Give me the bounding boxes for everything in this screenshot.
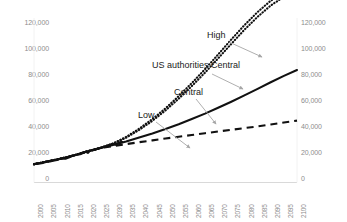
x-axis-tick-2035: 2035 bbox=[129, 204, 136, 218]
x-axis-tick-2075: 2075 bbox=[234, 204, 241, 218]
x-axis-tick-2005: 2005 bbox=[50, 204, 57, 218]
x-axis-tick-2000: 2000 bbox=[37, 204, 44, 218]
leader-arrow-central bbox=[196, 99, 216, 124]
x-axis-tick-2065: 2065 bbox=[208, 204, 215, 218]
annotation-label-us-authorities-central: US authorities Central bbox=[152, 60, 240, 70]
x-axis-tick-2060: 2060 bbox=[195, 204, 202, 218]
leader-arrow-us-authorities-central bbox=[212, 74, 243, 89]
series-path-high bbox=[34, 0, 297, 164]
series-path-central bbox=[34, 70, 297, 164]
x-axis-tick-2015: 2015 bbox=[77, 204, 84, 218]
x-axis-tick-2055: 2055 bbox=[182, 204, 189, 218]
x-axis-tick-2025: 2025 bbox=[103, 204, 110, 218]
x-axis-tick-2045: 2045 bbox=[156, 204, 163, 218]
x-axis-tick-2070: 2070 bbox=[221, 204, 228, 218]
series-path-historical bbox=[34, 142, 122, 164]
x-axis-tick-2010: 2010 bbox=[64, 204, 71, 218]
x-axis-tick-2085: 2085 bbox=[261, 204, 268, 218]
series-path-low bbox=[34, 121, 297, 165]
x-axis-tick-2095: 2095 bbox=[287, 204, 294, 218]
x-axis-tick-2040: 2040 bbox=[142, 204, 149, 218]
x-axis-tick-2050: 2050 bbox=[169, 204, 176, 218]
annotation-label-high: High bbox=[207, 30, 226, 40]
x-axis-tick-2080: 2080 bbox=[248, 204, 255, 218]
plot-area bbox=[0, 0, 347, 222]
x-axis-tick-2030: 2030 bbox=[116, 204, 123, 218]
x-axis-tick-2090: 2090 bbox=[274, 204, 281, 218]
series-path-us-authorities-central bbox=[34, 0, 297, 164]
leader-arrow-high bbox=[229, 42, 262, 57]
annotation-label-central: Central bbox=[174, 87, 203, 97]
x-axis-tick-2020: 2020 bbox=[90, 204, 97, 218]
x-axis-tick-2100: 2100 bbox=[300, 204, 307, 218]
chart-container: 120,000 100,000 80,000 60,000 40,000 20,… bbox=[0, 0, 347, 222]
annotation-label-low: Low bbox=[138, 110, 155, 120]
